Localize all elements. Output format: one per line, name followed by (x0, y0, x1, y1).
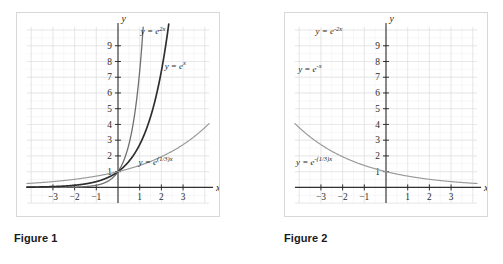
y-tick-label: 4 (107, 120, 112, 130)
figure-pair-page: −3−2−1123123456789xyy = e2xy = exy = e(1… (0, 0, 503, 264)
y-tick-label: 3 (107, 135, 112, 145)
x-tick-label: −2 (70, 192, 80, 202)
y-tick-label: 5 (375, 104, 380, 114)
figure-2-block: −3−2−1123123456789xyy = e-2xy = e-xy = e… (252, 0, 503, 264)
y-axis-label: y (388, 13, 394, 24)
x-tick-label: −1 (359, 192, 369, 202)
curve-y-equals-e-2x (27, 27, 143, 187)
y-tick-label: 4 (375, 120, 380, 130)
y-tick-label: 3 (375, 135, 380, 145)
y-tick-label: 8 (107, 57, 112, 67)
y-tick-label: 5 (107, 104, 112, 114)
figure-2-plot: −3−2−1123123456789xyy = e-2xy = e-xy = e… (285, 13, 487, 216)
x-tick-label: 3 (449, 192, 454, 202)
curve-label-y-equals-e-minus-one-third-x: y = e-(1/3)x (295, 155, 332, 166)
y-tick-label: 9 (107, 41, 112, 51)
figure-1-plot-card: −3−2−1123123456789xyy = e2xy = exy = e(1… (16, 12, 220, 217)
curve-label-y-equals-e-minus-x: y = e-x (297, 62, 322, 73)
y-tick-label: 1 (375, 167, 380, 177)
y-tick-label: 6 (107, 88, 112, 98)
x-tick-label: 1 (405, 192, 410, 202)
y-tick-label: 8 (375, 57, 380, 67)
curve-label-y-equals-e-x: y = ex (164, 59, 186, 70)
y-tick-label: 6 (375, 88, 380, 98)
x-tick-label: −3 (48, 192, 58, 202)
figure-1-caption: Figure 1 (14, 232, 58, 244)
x-axis-label: x (483, 182, 487, 193)
x-tick-label: −1 (91, 192, 101, 202)
y-tick-label: 7 (375, 72, 380, 82)
curve-label-y-equals-e-one-third-x: y = e(1/3)x (138, 155, 173, 166)
y-axis-label: y (120, 13, 126, 24)
x-tick-label: −3 (316, 192, 326, 202)
curve-label-y-equals-e-minus-2x: y = e-2x (315, 25, 343, 36)
y-tick-label: 2 (375, 151, 380, 161)
figure-2-plot-card: −3−2−1123123456789xyy = e-2xy = e-xy = e… (284, 12, 488, 217)
x-tick-label: 3 (181, 192, 186, 202)
x-axis-label: x (215, 182, 219, 193)
x-tick-label: 1 (137, 192, 142, 202)
y-tick-label: 9 (375, 41, 380, 51)
x-tick-label: −2 (338, 192, 348, 202)
figure-2-caption: Figure 2 (284, 232, 328, 244)
y-tick-label: 2 (107, 151, 112, 161)
figure-1-block: −3−2−1123123456789xyy = e2xy = exy = e(1… (0, 0, 251, 264)
y-tick-label: 7 (107, 72, 112, 82)
x-tick-label: 2 (159, 192, 164, 202)
figure-1-plot: −3−2−1123123456789xyy = e2xy = exy = e(1… (17, 13, 219, 216)
x-tick-label: 2 (427, 192, 432, 202)
